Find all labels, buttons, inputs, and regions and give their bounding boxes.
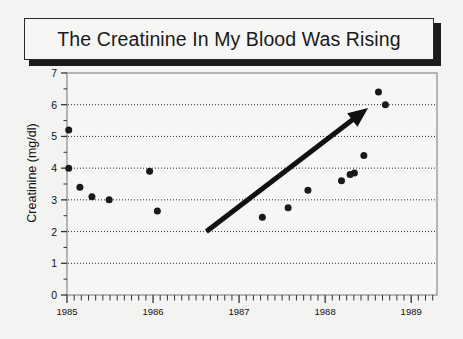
slide-canvas: The Creatinine In My Blood Was Rising Cr… — [0, 0, 463, 339]
data-point-4 — [106, 196, 113, 203]
x-tick-label: 1987 — [219, 306, 259, 317]
creatinine-scatter-chart: Creatinine (mg/dl) 01234567 198519861987… — [0, 66, 463, 339]
y-tick-label: 7 — [39, 67, 57, 79]
y-tick-label: 6 — [39, 99, 57, 111]
data-point-2 — [76, 184, 83, 191]
plot-area — [0, 66, 463, 339]
x-tick-label: 1989 — [391, 306, 431, 317]
data-point-0 — [65, 127, 72, 134]
y-axis-label: Creatinine (mg/dl) — [25, 78, 39, 268]
x-tick-label: 1988 — [305, 306, 345, 317]
x-tick-label: 1985 — [47, 306, 87, 317]
data-point-14 — [375, 89, 382, 96]
data-point-13 — [360, 152, 367, 159]
data-point-3 — [88, 193, 95, 200]
title-box: The Creatinine In My Blood Was Rising — [24, 18, 434, 60]
y-tick-label: 3 — [39, 194, 57, 206]
data-point-15 — [382, 101, 389, 108]
y-tick-label: 4 — [39, 162, 57, 174]
data-point-6 — [154, 207, 161, 214]
data-point-8 — [285, 204, 292, 211]
y-tick-label: 5 — [39, 130, 57, 142]
y-tick-label: 2 — [39, 226, 57, 238]
data-point-7 — [259, 214, 266, 221]
page-title: The Creatinine In My Blood Was Rising — [57, 28, 400, 51]
data-point-1 — [65, 165, 72, 172]
data-point-10 — [338, 177, 345, 184]
y-tick-label: 1 — [39, 257, 57, 269]
data-point-5 — [146, 168, 153, 175]
data-point-12 — [351, 169, 358, 176]
x-tick-label: 1986 — [133, 306, 173, 317]
y-tick-label: 0 — [39, 289, 57, 301]
plot-frame — [67, 73, 437, 295]
data-point-9 — [304, 187, 311, 194]
